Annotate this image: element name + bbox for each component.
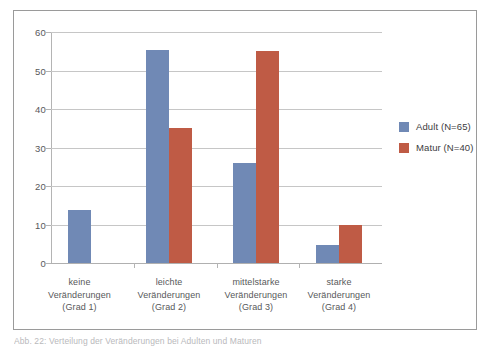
gridline-40: [51, 109, 382, 110]
y-tick-20: [44, 186, 51, 187]
legend-label: Matur (N=40): [416, 142, 473, 153]
legend-item-matur[interactable]: Matur (N=40): [399, 137, 473, 158]
y-tick-40: [44, 109, 51, 110]
x-axis-category-label: keineVeränderungen(Grad 1): [38, 276, 121, 314]
y-tick-30: [44, 148, 51, 149]
category-label-line: (Grad 4): [298, 301, 381, 314]
legend-swatch-icon: [399, 143, 409, 153]
plot-area: [51, 32, 382, 263]
y-tick-60: [44, 32, 51, 33]
chart-figure-frame: 0102030405060 Adult (N=65)Matur (N=40) k…: [13, 10, 477, 330]
category-label-line: leichte: [128, 276, 211, 289]
bar-adult-cat1: [68, 210, 91, 263]
category-label-line: Veränderungen: [298, 289, 381, 302]
gridline-20: [51, 186, 382, 187]
x-axis-tick: [299, 263, 300, 268]
bar-matur-cat2: [169, 128, 192, 263]
bar-matur-cat3: [256, 51, 279, 263]
category-label-line: keine: [38, 276, 121, 289]
bar-adult-cat2: [146, 50, 169, 263]
x-axis-tick: [134, 263, 135, 268]
gridline-30: [51, 148, 382, 149]
legend-item-adult[interactable]: Adult (N=65): [399, 116, 473, 137]
category-label-line: mittelstarke: [215, 276, 298, 289]
x-axis-tick: [217, 263, 218, 268]
category-label-line: Veränderungen: [215, 289, 298, 302]
legend-swatch-icon: [399, 122, 409, 132]
bar-matur-cat4: [339, 225, 362, 264]
gridline-10: [51, 225, 382, 226]
bar-adult-cat4: [316, 245, 339, 263]
gridline-60: [51, 32, 382, 33]
y-tick-0: [44, 263, 51, 264]
bar-adult-cat3: [233, 163, 256, 263]
x-axis-category-label: starkeVeränderungen(Grad 4): [298, 276, 381, 314]
category-label-line: Veränderungen: [38, 289, 121, 302]
category-label-line: (Grad 1): [38, 301, 121, 314]
x-axis-category-label: mittelstarkeVeränderungen(Grad 3): [215, 276, 298, 314]
chart-legend: Adult (N=65)Matur (N=40): [399, 116, 473, 158]
category-label-line: (Grad 3): [215, 301, 298, 314]
category-label-line: starke: [298, 276, 381, 289]
y-tick-50: [44, 71, 51, 72]
y-tick-10: [44, 225, 51, 226]
legend-label: Adult (N=65): [416, 121, 471, 132]
category-label-line: Veränderungen: [128, 289, 211, 302]
gridline-50: [51, 71, 382, 72]
figure-caption: Abb. 22: Verteilung der Veränderungen be…: [14, 336, 474, 346]
category-label-line: (Grad 2): [128, 301, 211, 314]
x-axis-category-label: leichteVeränderungen(Grad 2): [128, 276, 211, 314]
